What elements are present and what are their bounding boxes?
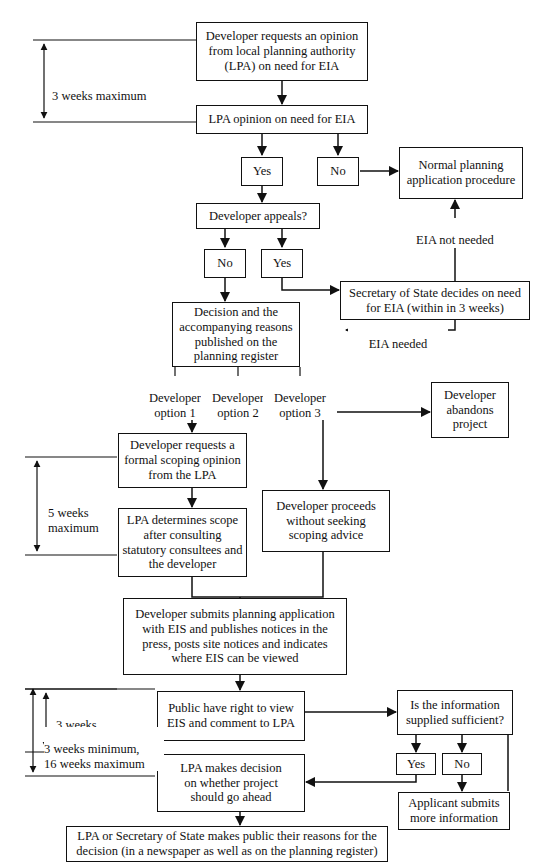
node-yes-3[interactable]: Yes bbox=[396, 753, 436, 775]
node-developer-abandons-project[interactable]: Developer abandons project bbox=[431, 382, 509, 438]
node-yes-1[interactable]: Yes bbox=[241, 157, 283, 186]
node-label: No bbox=[454, 757, 469, 772]
node-label: Public have right to view EIS and commen… bbox=[167, 701, 295, 731]
node-label: Developer appeals? bbox=[209, 209, 307, 224]
node-label: Developer requests a formal scoping opin… bbox=[124, 438, 241, 482]
node-label: Is the information supplied sufficient? bbox=[406, 698, 504, 728]
node-label: Yes bbox=[253, 164, 271, 179]
node-yes-2[interactable]: Yes bbox=[261, 249, 303, 278]
node-no-3[interactable]: No bbox=[442, 753, 482, 775]
node-lpa-opinion[interactable]: LPA opinion on need for EIA bbox=[196, 105, 368, 134]
node-decision-published[interactable]: Decision and the accompanying reasons pu… bbox=[172, 302, 300, 367]
node-developer-requests-scoping[interactable]: Developer requests a formal scoping opin… bbox=[118, 433, 247, 488]
node-label: Developer submits planning application w… bbox=[135, 607, 335, 666]
node-label: Decision and the accompanying reasons pu… bbox=[179, 305, 293, 364]
node-label: No bbox=[330, 164, 345, 179]
node-label: LPA determines scope after consulting st… bbox=[122, 513, 242, 572]
node-label: LPA opinion on need for EIA bbox=[208, 112, 355, 127]
node-developer-requests-opinion[interactable]: Developer requests an opinion from local… bbox=[196, 22, 368, 81]
node-label: Developer requests an opinion from local… bbox=[206, 29, 358, 73]
node-normal-planning-procedure[interactable]: Normal planning application procedure bbox=[399, 147, 523, 199]
node-no-2[interactable]: No bbox=[204, 249, 246, 278]
node-label: LPA or Secretary of State makes public t… bbox=[76, 829, 377, 859]
node-label: Normal planning application procedure bbox=[407, 158, 516, 188]
timing-label-three-weeks-maximum: 3 weeks maximum bbox=[52, 74, 182, 104]
node-label: Secretary of State decides on need for E… bbox=[349, 286, 521, 316]
node-developer-proceeds[interactable]: Developer proceeds without seeking scopi… bbox=[262, 490, 390, 552]
node-label: Applicant submits more information bbox=[408, 796, 499, 826]
edge-label-eia-not-needed: EIA not needed bbox=[395, 218, 515, 248]
node-lpa-or-sos-public-reasons[interactable]: LPA or Secretary of State makes public t… bbox=[66, 826, 388, 862]
node-no-1[interactable]: No bbox=[317, 157, 359, 186]
node-public-view-eis[interactable]: Public have right to view EIS and commen… bbox=[157, 691, 305, 741]
edge-label-eia-needed: EIA needed bbox=[348, 322, 448, 352]
node-secretary-of-state[interactable]: Secretary of State decides on need for E… bbox=[340, 281, 530, 320]
node-developer-submits-application[interactable]: Developer submits planning application w… bbox=[123, 598, 347, 675]
node-developer-appeals[interactable]: Developer appeals? bbox=[196, 203, 320, 229]
node-label: No bbox=[217, 256, 232, 271]
timing-label-three-min-sixteen-max: 3 weeks minimum, 16 weeks maximum bbox=[44, 727, 164, 771]
edge-label-developer-option-3: Developer option 3 bbox=[263, 376, 337, 420]
node-lpa-determines-scope[interactable]: LPA determines scope after consulting st… bbox=[118, 508, 247, 577]
node-lpa-makes-decision[interactable]: LPA makes decision on whether project sh… bbox=[157, 754, 305, 812]
node-label: Yes bbox=[407, 757, 425, 772]
node-label: Developer proceeds without seeking scopi… bbox=[276, 499, 376, 543]
timing-label-five-weeks-maximum: 5 weeks maximum bbox=[48, 491, 118, 535]
node-is-information-sufficient[interactable]: Is the information supplied sufficient? bbox=[397, 690, 513, 735]
node-label: LPA makes decision on whether project sh… bbox=[180, 761, 282, 805]
node-applicant-submits-more-info[interactable]: Applicant submits more information bbox=[398, 792, 510, 830]
node-label: Developer abandons project bbox=[444, 388, 496, 432]
flowchart-canvas: Developer requests an opinion from local… bbox=[0, 0, 560, 863]
node-label: Yes bbox=[273, 256, 291, 271]
